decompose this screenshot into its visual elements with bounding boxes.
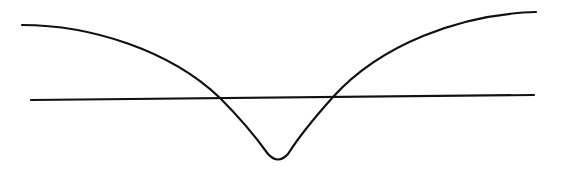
diagram-svg: [0, 0, 562, 176]
v-curve: [22, 12, 536, 160]
horizontal-line: [31, 95, 534, 100]
diagram-canvas: V-shaped curve with rounded minimum cros…: [0, 0, 562, 176]
